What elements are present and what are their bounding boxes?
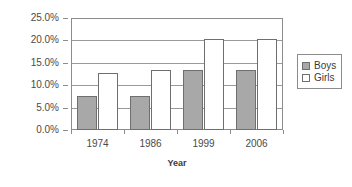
bar-boys-1974 [77,96,97,130]
x-tick-label: 1986 [139,138,161,149]
bar-chart: 0.0%5.0%10.0%15.0%20.0%25.0% 19741986199… [0,0,352,187]
legend-item-girls[interactable]: Girls [302,72,336,83]
x-tick-mark [71,130,72,134]
legend-swatch-girls-icon [302,74,310,82]
y-tick-mark [63,40,68,41]
bar-girls-1974 [98,73,118,130]
y-tick-label: 20.0% [31,35,59,45]
bar-girls-1986 [151,70,171,130]
y-tick-label: 0.0% [36,125,59,135]
legend-label-girls: Girls [314,72,335,83]
y-tick-label: 10.0% [31,80,59,90]
y-axis: 0.0%5.0%10.0%15.0%20.0%25.0% [0,0,69,187]
x-tick-mark [230,130,231,134]
y-tick-mark [63,18,68,19]
bar-boys-2006 [236,70,256,130]
x-tick-label: 1974 [86,138,108,149]
x-axis: 1974198619992006 [71,130,283,160]
bar-girls-1999 [204,39,224,130]
bar-boys-1999 [183,70,203,130]
y-tick-mark [63,63,68,64]
y-tick-label: 25.0% [31,13,59,23]
legend-item-boys[interactable]: Boys [302,60,336,71]
x-tick-label: 2006 [245,138,267,149]
x-tick-label: 1999 [192,138,214,149]
x-tick-mark [283,130,284,134]
y-tick-mark [63,85,68,86]
bars-layer [71,18,283,130]
y-tick-label: 15.0% [31,58,59,68]
y-tick-label: 5.0% [36,103,59,113]
legend-label-boys: Boys [314,60,336,71]
y-tick-mark [63,108,68,109]
y-tick-mark [63,130,68,131]
x-tick-mark [124,130,125,134]
chart-legend: Boys Girls [297,54,342,89]
bar-boys-1986 [130,96,150,130]
bar-girls-2006 [257,39,277,130]
legend-swatch-boys-icon [302,62,310,70]
x-tick-mark [177,130,178,134]
x-axis-title: Year [71,158,283,168]
